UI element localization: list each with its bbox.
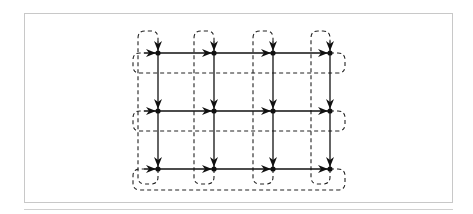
node-r2-c3 — [327, 166, 332, 171]
node-r1-c1 — [211, 108, 216, 113]
node-r1-c0 — [155, 108, 160, 113]
column-wrap-link-0 — [138, 31, 158, 184]
node-r2-c0 — [155, 166, 160, 171]
column-wrap-link-2 — [253, 31, 273, 184]
node-r2-c1 — [211, 166, 216, 171]
node-r2-c2 — [270, 166, 275, 171]
mesh-links — [144, 41, 330, 169]
node-r1-c2 — [270, 108, 275, 113]
node-r0-c0 — [155, 50, 160, 55]
torus-network-diagram — [0, 0, 473, 214]
arrowheads — [146, 41, 334, 173]
row-wrap-link-2 — [133, 169, 345, 190]
node-r0-c3 — [327, 50, 332, 55]
node-r0-c2 — [270, 50, 275, 55]
row-wrap-link-0 — [133, 53, 345, 73]
row-wrap-link-1 — [133, 111, 345, 131]
column-wrap-link-1 — [194, 31, 214, 184]
node-r0-c1 — [211, 50, 216, 55]
node-r1-c3 — [327, 108, 332, 113]
